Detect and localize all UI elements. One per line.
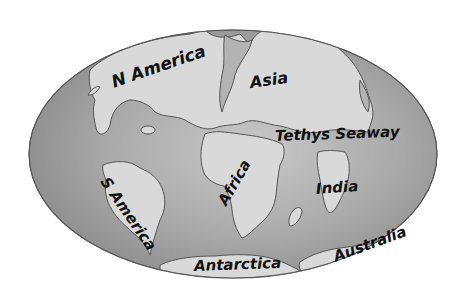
label-antarctica: Antarctica bbox=[194, 254, 282, 275]
label-india: India bbox=[315, 177, 358, 198]
island bbox=[141, 126, 155, 134]
